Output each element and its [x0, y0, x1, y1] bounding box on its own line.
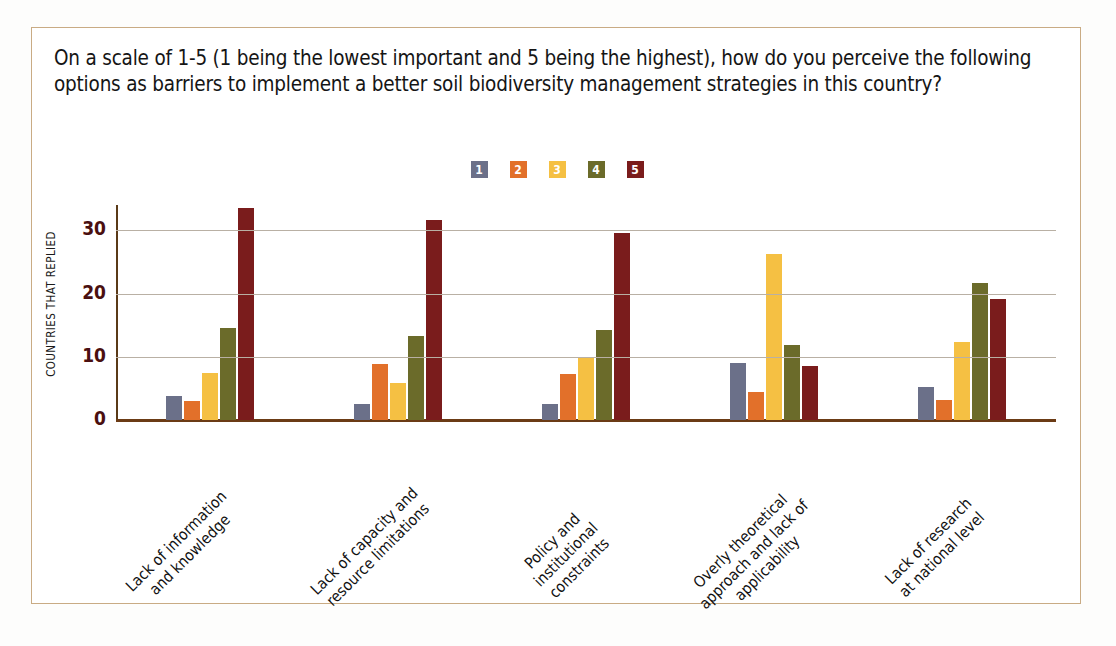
bar-4-group-5[interactable] [972, 283, 988, 420]
legend-swatch-2: 2 [510, 161, 527, 178]
axes [116, 205, 1056, 420]
y-axis-title: COUNTRIES THAT REPLIED [42, 196, 60, 411]
x-axis-label-2: Lack of capacity andresource limitations [266, 443, 477, 646]
bar-5-group-3[interactable] [614, 233, 630, 420]
bar-group-5 [868, 205, 1056, 420]
bar-1-group-2[interactable] [354, 404, 370, 420]
bar-1-group-3[interactable] [542, 404, 558, 420]
legend-swatch-4: 4 [588, 161, 605, 178]
bars-container [304, 205, 492, 420]
y-axis-title-text: COUNTRIES THAT REPLIED [44, 231, 58, 377]
gridline-20 [116, 294, 1056, 295]
bar-4-group-3[interactable] [596, 330, 612, 420]
x-axis-label-5: Lack of researchat national level [830, 443, 1041, 646]
legend-item-1: 1 [471, 161, 488, 178]
legend: 12345 [32, 161, 1082, 178]
x-axis-labels: Lack of informationand knowledgeLack of … [116, 443, 1056, 623]
bars-container [492, 205, 680, 420]
bar-3-group-3[interactable] [578, 357, 594, 420]
x-axis-label-4: Overly theoreticalapproach and lack ofap… [642, 443, 866, 646]
x-axis-label-1: Lack of informationand knowledge [78, 443, 289, 646]
legend-item-5: 5 [627, 161, 644, 178]
bars-container [680, 205, 868, 420]
legend-item-4: 4 [588, 161, 605, 178]
legend-swatch-1: 1 [471, 161, 488, 178]
question-title: On a scale of 1-5 (1 being the lowest im… [54, 46, 1054, 97]
bar-groups [116, 205, 1056, 420]
bar-5-group-2[interactable] [426, 220, 442, 420]
gridline-30 [116, 230, 1056, 231]
plot-area: COUNTRIES THAT REPLIED 0102030 [32, 196, 1082, 436]
bars-container [868, 205, 1056, 420]
bar-group-2 [304, 205, 492, 420]
bar-2-group-5[interactable] [936, 400, 952, 420]
bar-group-1 [116, 205, 304, 420]
legend-item-3: 3 [549, 161, 566, 178]
legend-swatch-5: 5 [627, 161, 644, 178]
y-tick-label-30: 30 [64, 217, 106, 239]
chart-page: On a scale of 1-5 (1 being the lowest im… [0, 0, 1116, 646]
chart-card: On a scale of 1-5 (1 being the lowest im… [31, 27, 1081, 604]
y-tick-label-10: 10 [64, 344, 106, 366]
x-axis-label-3: Policy andinstitutionalconstraints [454, 443, 678, 646]
bar-3-group-2[interactable] [390, 383, 406, 420]
bar-1-group-4[interactable] [730, 363, 746, 420]
bar-2-group-4[interactable] [748, 392, 764, 420]
bar-5-group-5[interactable] [990, 299, 1006, 420]
bars-container [116, 205, 304, 420]
legend-item-2: 2 [510, 161, 527, 178]
bar-2-group-2[interactable] [372, 364, 388, 420]
bar-2-group-3[interactable] [560, 374, 576, 420]
bar-group-4 [680, 205, 868, 420]
bar-5-group-1[interactable] [238, 208, 254, 420]
gridline-10 [116, 357, 1056, 358]
bar-4-group-2[interactable] [408, 336, 424, 420]
bar-3-group-5[interactable] [954, 342, 970, 420]
bar-5-group-4[interactable] [802, 366, 818, 420]
legend-swatch-3: 3 [549, 161, 566, 178]
y-tick-label-0: 0 [64, 407, 106, 429]
bar-1-group-5[interactable] [918, 387, 934, 420]
bar-2-group-1[interactable] [184, 401, 200, 420]
bar-4-group-1[interactable] [220, 328, 236, 420]
bar-3-group-4[interactable] [766, 254, 782, 420]
bar-3-group-1[interactable] [202, 373, 218, 420]
bar-1-group-1[interactable] [166, 396, 182, 420]
y-tick-label-20: 20 [64, 281, 106, 303]
bar-group-3 [492, 205, 680, 420]
